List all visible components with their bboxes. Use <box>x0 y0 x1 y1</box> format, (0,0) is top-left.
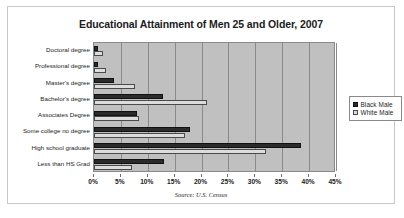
legend-item[interactable]: White Male <box>353 109 399 116</box>
axis-tick-label: 5% <box>115 178 125 185</box>
bar-group <box>94 124 334 140</box>
bar-group <box>94 157 334 173</box>
axis-tick <box>308 174 309 177</box>
bar <box>94 78 114 83</box>
plot-area <box>93 42 335 172</box>
axis-tick <box>254 174 255 177</box>
bar-group <box>94 108 334 124</box>
chart-legend: Black MaleWhite Male <box>349 96 402 121</box>
chart-frame: Educational Attainment of Men 25 and Old… <box>7 6 395 204</box>
gridline <box>336 43 337 171</box>
bar-group <box>94 141 334 157</box>
category-label: Associates Degree <box>18 111 90 118</box>
axis-tick <box>201 174 202 177</box>
axis-tick <box>335 174 336 177</box>
axis-tick-label: 45% <box>328 178 341 185</box>
bar <box>94 51 103 56</box>
category-label: Bachelor's degree <box>18 95 90 102</box>
value-axis: 0%5%10%15%20%25%30%35%40%45% <box>93 174 335 188</box>
axis-tick-label: 10% <box>140 178 153 185</box>
source-note: Source: U.S. Census <box>8 191 394 198</box>
legend-item[interactable]: Black Male <box>353 101 399 108</box>
bar <box>94 84 135 89</box>
category-label: Master's degree <box>18 79 90 86</box>
bar <box>94 159 164 164</box>
axis-tick <box>120 174 121 177</box>
legend-label: White Male <box>361 109 394 116</box>
axis-tick <box>174 174 175 177</box>
bar <box>94 46 98 51</box>
bar <box>94 143 301 148</box>
category-label: Professional degree <box>18 62 90 69</box>
category-axis-labels: Doctoral degreeProfessional degreeMaster… <box>18 42 90 172</box>
axis-tick <box>227 174 228 177</box>
axis-tick-label: 40% <box>302 178 315 185</box>
bar-group <box>94 92 334 108</box>
category-label: Less than HS Grad <box>18 160 90 167</box>
legend-label: Black Male <box>361 101 393 108</box>
axis-tick-label: 20% <box>194 178 207 185</box>
axis-tick-label: 25% <box>221 178 234 185</box>
bar <box>94 94 163 99</box>
bar-group <box>94 43 334 59</box>
bar <box>94 100 207 105</box>
bar-group <box>94 59 334 75</box>
axis-tick-label: 35% <box>275 178 288 185</box>
category-label: Doctoral degree <box>18 46 90 53</box>
bar <box>94 116 139 121</box>
bar <box>94 68 106 73</box>
black-swatch-icon <box>353 102 358 107</box>
category-label: Some college no degree <box>18 127 90 134</box>
axis-tick <box>93 174 94 177</box>
bar <box>94 149 266 154</box>
axis-tick-label: 0% <box>88 178 98 185</box>
category-label: High school graduate <box>18 144 90 151</box>
bar <box>94 133 185 138</box>
bar <box>94 62 98 67</box>
white-swatch-icon <box>353 110 358 115</box>
axis-tick <box>281 174 282 177</box>
axis-tick-label: 30% <box>248 178 261 185</box>
bar <box>94 127 190 132</box>
bar-group <box>94 76 334 92</box>
axis-tick-label: 15% <box>167 178 180 185</box>
bar <box>94 111 137 116</box>
chart-title: Educational Attainment of Men 25 and Old… <box>8 18 394 30</box>
axis-tick <box>147 174 148 177</box>
bar <box>94 165 132 170</box>
